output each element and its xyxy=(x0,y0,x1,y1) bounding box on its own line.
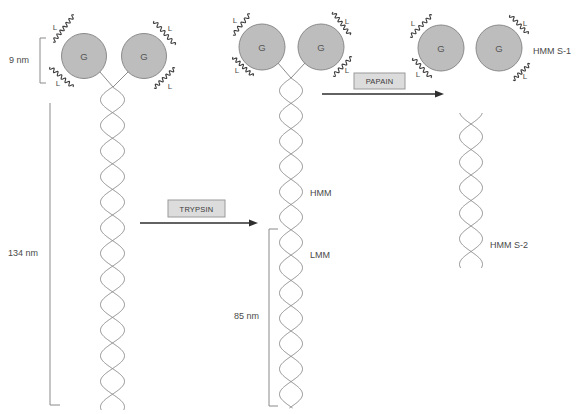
neck-strand-1 xyxy=(100,72,113,87)
head-label-2: G xyxy=(495,43,502,54)
hmm-lmm-molecule: G G L L L L HMM LMM 85 nm xyxy=(233,12,353,408)
light-chain-label-1: L xyxy=(53,23,58,32)
lmm-length-label: 85 nm xyxy=(234,311,259,321)
lmm-length-bracket xyxy=(269,229,278,406)
neck-strand-2 xyxy=(291,63,305,78)
papain-step: PAPAIN xyxy=(322,73,444,98)
s1-label: HMM S-1 xyxy=(533,46,571,56)
head-size-label: 9 nm xyxy=(9,55,29,65)
rod-helix-strand-a xyxy=(280,78,303,408)
light-chain-label-3: L xyxy=(345,17,350,26)
trypsin-step: TRYPSIN xyxy=(140,200,258,227)
head-label-1: G xyxy=(80,51,87,62)
length-bracket xyxy=(50,103,60,405)
head-label-1: G xyxy=(437,43,444,54)
s2-fragment: HMM S-2 xyxy=(460,113,528,268)
rod-helix-strand-b xyxy=(280,78,303,408)
neck-strand-1 xyxy=(278,63,291,78)
trypsin-arrowhead-icon xyxy=(249,220,258,227)
light-chain-label-1: L xyxy=(233,16,238,25)
head-size-bracket xyxy=(40,38,46,83)
light-chain-label-4: L xyxy=(523,72,528,81)
papain-arrowhead-icon xyxy=(435,91,444,98)
light-chain-label-3: L xyxy=(168,24,173,33)
rod-helix-strand-b xyxy=(101,87,125,410)
light-chain-4 xyxy=(513,63,530,80)
myosin-proteolysis-diagram: 9 nm 134 nm G G L L L L TRYPSIN G G xyxy=(0,0,586,414)
length-label: 134 nm xyxy=(8,248,38,258)
s1-fragments: G G L L L L HMM S-1 xyxy=(410,15,571,81)
lmm-label: LMM xyxy=(310,250,330,260)
head-label-2: G xyxy=(317,42,324,53)
intact-myosin: 9 nm 134 nm G G L L L L xyxy=(8,15,176,410)
papain-label: PAPAIN xyxy=(366,77,394,86)
light-chain-label-2: L xyxy=(56,79,61,88)
head-label-2: G xyxy=(140,51,147,62)
trypsin-label: TRYPSIN xyxy=(180,205,214,214)
light-chain-label-4: L xyxy=(345,66,350,75)
s2-label: HMM S-2 xyxy=(490,240,528,250)
light-chain-label-2: L xyxy=(416,70,421,79)
head-label-1: G xyxy=(258,42,265,53)
hmm-label: HMM xyxy=(310,188,332,198)
light-chain-label-2: L xyxy=(235,66,240,75)
light-chain-label-4: L xyxy=(168,82,173,91)
light-chain-label-3: L xyxy=(523,19,528,28)
rod-helix-strand-a xyxy=(101,87,125,410)
light-chain-label-1: L xyxy=(411,19,416,28)
neck-strand-2 xyxy=(113,72,128,87)
